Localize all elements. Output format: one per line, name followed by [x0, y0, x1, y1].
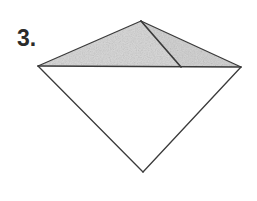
- problem-number-label: 3.: [17, 26, 36, 50]
- geometry-diagram: [0, 0, 257, 201]
- figure-canvas: 3.: [0, 0, 257, 201]
